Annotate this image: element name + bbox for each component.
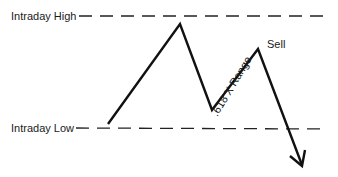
price-pattern-diagram: [0, 0, 338, 177]
sell-label: Sell: [267, 38, 285, 50]
intraday-low-label: Intraday Low: [11, 122, 74, 134]
intraday-low-line: [76, 128, 328, 129]
intraday-high-label: Intraday High: [11, 10, 76, 22]
